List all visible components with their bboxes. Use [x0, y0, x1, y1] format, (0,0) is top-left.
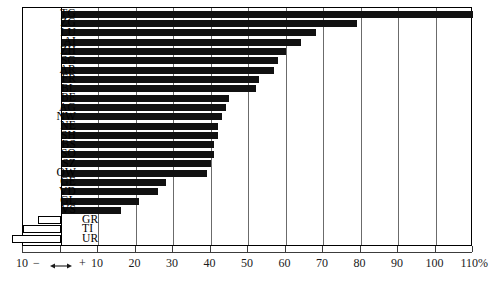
bar-row [23, 215, 471, 225]
x-tick-80 [360, 246, 361, 252]
bar-row [23, 38, 471, 48]
bar-ow [61, 170, 207, 177]
bar-bs [61, 141, 215, 148]
bar-row [23, 140, 471, 150]
x-tick-20 [135, 246, 136, 252]
x-tick-10 [97, 246, 98, 252]
bar-chart: TGZGLUAIZHSGARFRBLBEAGNWNESHBSSOSZOWGEVD… [0, 0, 494, 282]
bar-lu [61, 29, 316, 36]
bar-row [23, 94, 471, 104]
x-tick-label-90: 90 [391, 257, 403, 270]
x-tick-label-30: 30 [166, 257, 178, 270]
positive-sign-marker: + [79, 257, 86, 270]
x-tick-90 [397, 246, 398, 252]
x-tick-110 [472, 246, 473, 252]
bar-ne [61, 123, 219, 130]
bar-row [23, 206, 471, 216]
bar-row [23, 66, 471, 76]
bar-row [23, 169, 471, 179]
x-tick-label-20: 20 [129, 257, 141, 270]
bar-row [23, 150, 471, 160]
x-tick-30 [172, 246, 173, 252]
x-tick-label-40: 40 [204, 257, 216, 270]
origin-double-arrow-icon [50, 262, 72, 270]
bar-nw [61, 113, 222, 120]
bar-zh [61, 48, 286, 55]
x-tick-label-10: 10 [91, 257, 103, 270]
x-tick-0 [60, 246, 61, 252]
x-axis-line [22, 252, 472, 253]
bars-container [23, 8, 471, 245]
bar-zg [61, 20, 357, 27]
bar-ti [23, 225, 61, 233]
bar-bl [61, 85, 256, 92]
x-tick-70 [322, 246, 323, 252]
bar-row [23, 47, 471, 57]
bar-row [23, 19, 471, 29]
x-tick-60 [285, 246, 286, 252]
zero-axis-line [61, 8, 62, 245]
bar-row [23, 56, 471, 66]
x-tick-label-80: 80 [354, 257, 366, 270]
bar-row [23, 75, 471, 85]
plot-frame [22, 7, 472, 246]
bar-row [23, 103, 471, 113]
bar-fr [61, 76, 260, 83]
bar-row [23, 122, 471, 132]
x-tick-40 [210, 246, 211, 252]
bar-ar [61, 67, 275, 74]
bar-ge [61, 179, 166, 186]
bar-vd [61, 188, 159, 195]
bar-gl [61, 198, 140, 205]
bar-ai [61, 39, 301, 46]
x-tick--10 [22, 246, 23, 252]
x-tick-100 [435, 246, 436, 252]
bar-row [23, 112, 471, 122]
bar-row [23, 10, 471, 20]
bar-row [23, 178, 471, 188]
x-tick-label-110: 110% [460, 257, 488, 270]
x-tick-label-100: 100 [426, 257, 444, 270]
x-tick-label-60: 60 [279, 257, 291, 270]
bar-row [23, 131, 471, 141]
x-tick-label-70: 70 [316, 257, 328, 270]
bar-row [23, 28, 471, 38]
x-tick-50 [247, 246, 248, 252]
bar-be [61, 95, 230, 102]
bar-ur [12, 235, 61, 243]
bar-row [23, 225, 471, 235]
bar-so [61, 151, 215, 158]
bar-row [23, 187, 471, 197]
bar-row [23, 159, 471, 169]
x-tick-label-50: 50 [241, 257, 253, 270]
bar-sh [61, 132, 219, 139]
bar-sg [61, 57, 279, 64]
bar-tg [61, 11, 474, 18]
bar-sz [61, 160, 211, 167]
bar-gr [38, 216, 61, 224]
bar-row [23, 234, 471, 244]
bar-vs [61, 207, 121, 214]
negative-sign-marker: − [33, 257, 40, 270]
x-tick-label--10: 10 [16, 257, 28, 270]
bar-ag [61, 104, 226, 111]
bar-row [23, 84, 471, 94]
bar-row [23, 197, 471, 207]
